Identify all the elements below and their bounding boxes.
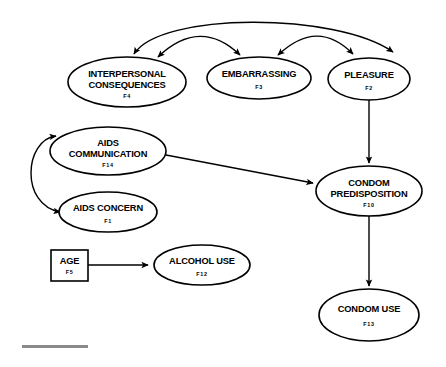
node-label-line1: AGE [60,256,80,266]
node-embarrassing[interactable]: EMBARRASSING F3 [207,57,311,99]
node-label-line1: ALCOHOL USE [169,256,235,266]
node-pleasure[interactable]: PLEASURE F2 [328,58,410,100]
edge-f4-f3-covariance [158,36,240,57]
node-code-label: F3 [255,84,263,90]
node-code-label: F14 [102,162,113,168]
node-label-line1: AIDS CONCERN [73,203,143,213]
node-condom-predisposition[interactable]: CONDOM PREDISPOSITION F10 [316,166,422,216]
node-label-line1: PLEASURE [344,70,393,80]
node-alcohol-use[interactable]: ALCOHOL USE F12 [154,245,250,285]
node-code-label: F12 [196,271,207,277]
node-label-line2: COMMUNICATION [69,149,148,159]
node-label-line1: INTERPERSONAL [88,69,166,79]
edge-f4-f2-covariance [134,22,393,54]
node-label-line1: EMBARRASSING [222,69,297,79]
node-shape-ellipse [319,289,419,341]
node-interpersonal-consequences[interactable]: INTERPERSONAL CONSEQUENCES F4 [68,57,186,107]
node-age[interactable]: AGE F5 [51,250,88,281]
node-condom-use[interactable]: CONDOM USE F13 [319,289,419,341]
node-code-label: F5 [66,269,74,275]
footer-rule-divider [22,345,88,348]
path-diagram-svg: INTERPERSONAL CONSEQUENCES F4 EMBARRASSI… [0,0,446,367]
node-aids-communication[interactable]: AIDS COMMUNICATION F14 [50,127,166,175]
node-code-label: F10 [363,202,374,208]
node-label-line1: AIDS [97,138,119,148]
node-aids-concern[interactable]: AIDS CONCERN F1 [59,192,157,232]
edge-f14-f10-regression [166,155,313,183]
edge-f3-f2-covariance [278,36,353,55]
node-code-label: F1 [104,218,112,224]
node-label-line1: CONDOM USE [338,304,401,314]
node-code-label: F13 [363,321,374,327]
node-label-line1: CONDOM [348,178,390,188]
node-label-line2: CONSEQUENCES [88,80,165,90]
path-diagram-canvas: INTERPERSONAL CONSEQUENCES F4 EMBARRASSI… [0,0,446,367]
node-label-line2: PREDISPOSITION [331,189,408,199]
node-code-label: F2 [365,85,373,91]
node-code-label: F4 [123,93,131,99]
